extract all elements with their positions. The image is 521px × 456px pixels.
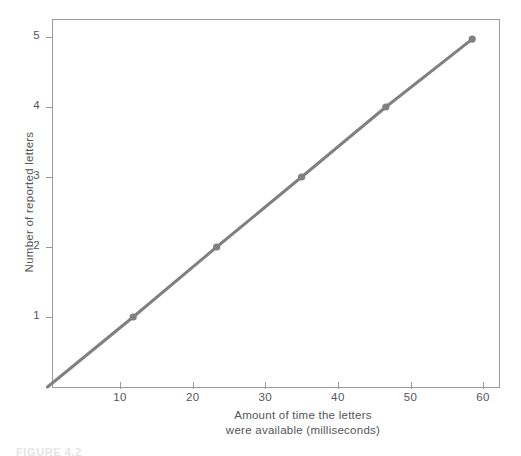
- y-tick-label: 5: [22, 29, 40, 41]
- x-axis-label-line-1: Amount of time the letters: [158, 408, 448, 423]
- data-point: [130, 313, 137, 320]
- x-tick-mark: [483, 382, 484, 389]
- x-tick-mark: [193, 382, 194, 389]
- x-tick-label: 60: [468, 391, 498, 403]
- data-line: [48, 39, 473, 387]
- x-tick-mark: [411, 382, 412, 389]
- x-axis-label: Amount of time the letters were availabl…: [158, 408, 448, 438]
- x-tick-label: 30: [250, 391, 280, 403]
- y-tick-mark: [46, 37, 53, 38]
- data-point: [382, 103, 389, 110]
- y-tick-mark: [46, 317, 53, 318]
- x-tick-mark: [120, 382, 121, 389]
- figure-container: 102030405060 12345 Number of reported le…: [0, 0, 521, 456]
- x-tick-mark: [338, 382, 339, 389]
- x-axis-label-line-2: were available (milliseconds): [158, 423, 448, 438]
- y-tick-mark: [46, 107, 53, 108]
- y-axis-label: Number of reported letters: [23, 117, 35, 287]
- x-tick-label: 20: [178, 391, 208, 403]
- data-point: [469, 36, 476, 43]
- y-tick-label: 4: [22, 99, 40, 111]
- y-tick-mark: [46, 247, 53, 248]
- x-tick-label: 50: [396, 391, 426, 403]
- figure-caption: FIGURE 4.2: [16, 446, 82, 456]
- plot-area: [52, 19, 500, 388]
- x-tick-label: 40: [323, 391, 353, 403]
- data-point: [298, 173, 305, 180]
- x-tick-mark: [265, 382, 266, 389]
- x-tick-label: 10: [105, 391, 135, 403]
- y-tick-mark: [46, 177, 53, 178]
- data-point: [213, 243, 220, 250]
- y-tick-label: 1: [22, 309, 40, 321]
